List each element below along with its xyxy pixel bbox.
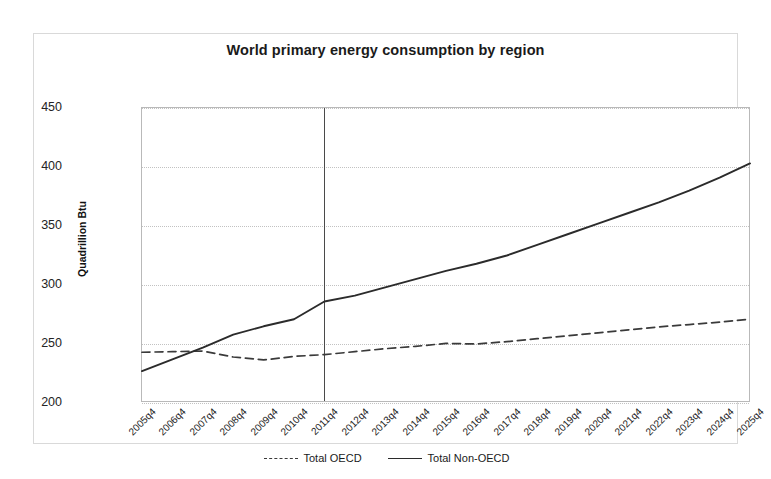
gridline: [142, 403, 749, 404]
x-axis-tick-label: 2009q4: [248, 406, 279, 437]
legend-label: Total Non-OECD: [428, 452, 510, 464]
legend-item-total-oecd[interactable]: Total OECD: [264, 452, 362, 464]
chart-title: World primary energy consumption by regi…: [34, 42, 737, 58]
legend-swatch-solid-icon: [388, 458, 422, 459]
x-axis-tick-label: 2024q4: [704, 406, 735, 437]
data-series-lines: [142, 108, 751, 403]
x-axis-tick-label: 2016q4: [461, 406, 492, 437]
legend-label: Total OECD: [304, 452, 362, 464]
x-axis-tick-label: 2014q4: [400, 406, 431, 437]
x-axis-tick-label: 2006q4: [157, 406, 188, 437]
series-line-total-oecd: [142, 319, 750, 360]
chart-legend: Total OECD Total Non-OECD: [34, 452, 739, 464]
x-axis-tick-label: 2019q4: [552, 406, 583, 437]
x-axis-tick-label: 2005q4: [126, 406, 157, 437]
x-axis-tick-label: 2021q4: [613, 406, 644, 437]
y-axis-title: Quadrillion Btu: [76, 201, 88, 277]
x-axis-tick-label: 2017q4: [491, 406, 522, 437]
x-axis-tick-label: 2020q4: [582, 406, 613, 437]
x-axis-tick-label: 2010q4: [278, 406, 309, 437]
x-axis-tick-label: 2025q4: [734, 406, 765, 437]
series-line-total-non-oecd: [142, 163, 750, 371]
y-axis-tick-label: 450: [16, 100, 62, 114]
y-axis-tick-label: 400: [16, 159, 62, 173]
legend-swatch-dashed-icon: [264, 458, 298, 459]
x-axis-tick-label: 2018q4: [522, 406, 553, 437]
x-axis-tick-label: 2013q4: [370, 406, 401, 437]
y-axis-tick-label: 350: [16, 218, 62, 232]
y-axis-tick-label: 250: [16, 336, 62, 350]
plot-area: [141, 107, 750, 402]
x-axis-tick-label: 2015q4: [430, 406, 461, 437]
y-axis-tick-label: 300: [16, 277, 62, 291]
x-axis-tick-label: 2012q4: [339, 406, 370, 437]
legend-item-total-non-oecd[interactable]: Total Non-OECD: [388, 452, 510, 464]
chart-container: World primary energy consumption by regi…: [33, 33, 738, 444]
chart-screenshot: World primary energy consumption by regi…: [0, 0, 771, 479]
x-axis-tick-label: 2011q4: [309, 406, 340, 437]
x-axis-tick-label: 2022q4: [643, 406, 674, 437]
y-axis-tick-label: 200: [16, 395, 62, 409]
x-axis-tick-label: 2007q4: [187, 406, 218, 437]
x-axis-tick-label: 2023q4: [674, 406, 705, 437]
x-axis-tick-label: 2008q4: [218, 406, 249, 437]
